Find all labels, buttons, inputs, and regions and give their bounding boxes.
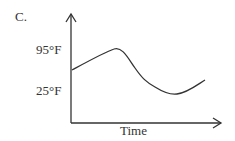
temperature-curve bbox=[72, 49, 205, 95]
temperature-chart bbox=[0, 0, 235, 141]
